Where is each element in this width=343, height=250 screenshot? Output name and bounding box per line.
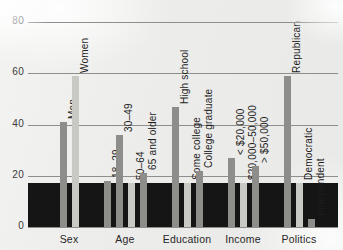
bar-label: High school: [179, 49, 190, 103]
bar-fill: [296, 183, 303, 227]
chart-page: 020406080 MenWomen18–2930–4950–6465 and …: [0, 0, 343, 250]
plot-area: 020406080 MenWomen18–2930–4950–6465 and …: [28, 22, 338, 227]
bar-label: < $20,000: [235, 108, 246, 155]
gridline-0: [28, 227, 338, 228]
bar: < $20,000: [228, 158, 235, 227]
bar-fill: [60, 122, 67, 227]
bar-fill: [104, 181, 111, 227]
bar: 30–49: [116, 135, 123, 227]
bar-label: College graduate: [203, 88, 214, 167]
bar-fill: [308, 219, 315, 227]
bar: > $50,000: [252, 166, 259, 228]
bar: 65 and older: [140, 173, 147, 227]
bar-fill: [284, 76, 291, 227]
bar-fill: [72, 76, 79, 227]
bar-fill: [116, 135, 123, 227]
bar: 18–29: [104, 181, 111, 227]
bar: 50–64: [128, 183, 135, 227]
bar-fill: [252, 166, 259, 228]
x-axis-baseline: [28, 22, 338, 23]
bar-fill: [172, 107, 179, 227]
bar: $20,000–50,000: [240, 183, 247, 227]
group-label-politics: Politics: [259, 233, 339, 245]
bar-fill: [184, 183, 191, 227]
bar: Democratic: [296, 183, 303, 227]
y-tick-label-60: 60: [0, 66, 24, 77]
bar-fill: [196, 171, 203, 227]
bar-fill: [240, 183, 247, 227]
bar-fill: [128, 183, 135, 227]
bar-fill: [140, 173, 147, 227]
bar-label: Republican: [291, 21, 302, 73]
bar: High school: [172, 107, 179, 227]
y-tick-label-40: 40: [0, 118, 24, 129]
bar-label: 65 and older: [147, 112, 158, 170]
bar: Men: [60, 122, 67, 227]
bar: College graduate: [196, 171, 203, 227]
bar-label: > $50,000: [259, 116, 270, 163]
bar-label: Women: [79, 38, 90, 73]
bar-fill: [228, 158, 235, 227]
bar-label: Independent: [315, 159, 326, 217]
bar-label: 30–49: [123, 103, 134, 132]
y-tick-label-80: 80: [0, 15, 24, 26]
bar: Independent: [308, 219, 315, 227]
bar-label: Democratic: [303, 128, 314, 181]
y-tick-label-0: 0: [0, 220, 24, 231]
bar: Republican: [284, 76, 291, 227]
bar: Some college: [184, 183, 191, 227]
bar: Women: [72, 76, 79, 227]
y-tick-label-20: 20: [0, 169, 24, 180]
